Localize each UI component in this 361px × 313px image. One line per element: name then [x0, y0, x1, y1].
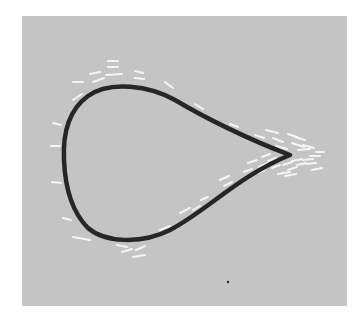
teardrop-streamline-figure — [0, 0, 361, 313]
streamline-dash — [298, 149, 310, 150]
streamline-dash — [135, 78, 144, 79]
speck-dot — [227, 281, 229, 283]
gray-panel — [22, 16, 347, 306]
streamline-dash — [106, 74, 122, 75]
streamline-dash — [306, 163, 316, 164]
streamline-dash — [52, 182, 61, 183]
streamline-dash — [303, 159, 313, 160]
